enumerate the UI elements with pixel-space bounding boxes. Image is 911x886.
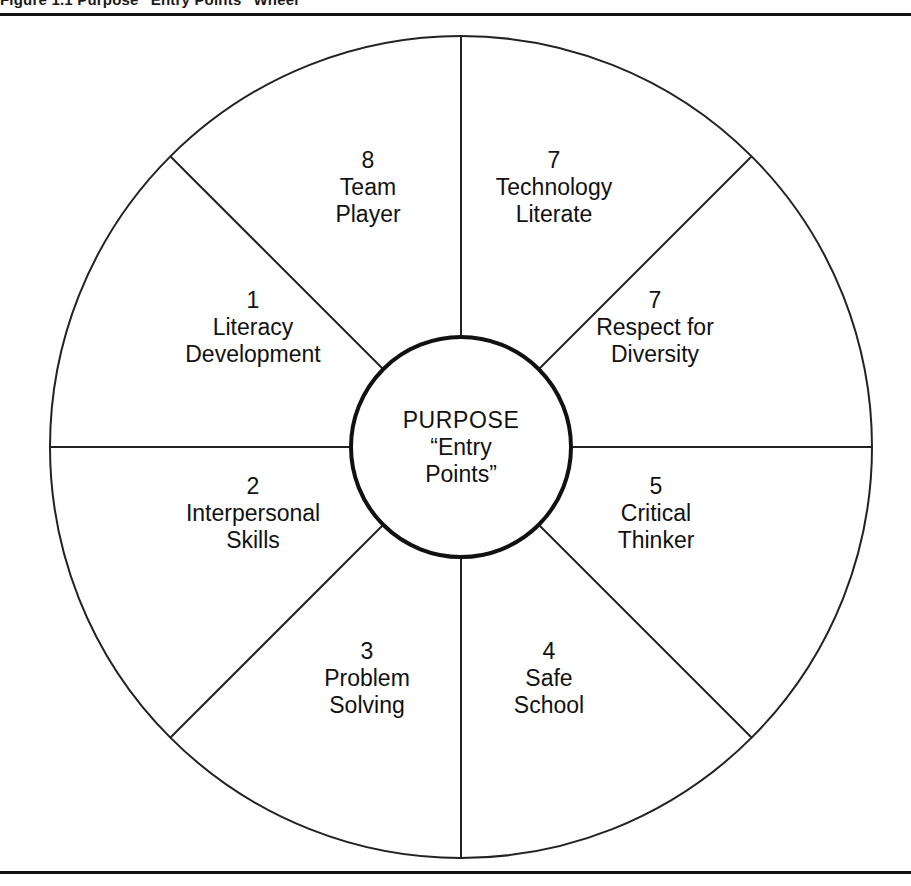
- segment-number: 2: [186, 473, 320, 500]
- segment-line-1: Critical: [618, 500, 695, 527]
- segment-line-2: Solving: [324, 691, 410, 718]
- segment-line-2: Diversity: [596, 340, 714, 367]
- segment-line-1: Technology: [496, 174, 612, 201]
- segment-label-respect-for-diversity: 7 Respect for Diversity: [596, 287, 714, 368]
- segment-line-1: Literacy: [185, 314, 321, 341]
- hub-label: PURPOSE “Entry Points”: [403, 407, 520, 488]
- segment-label-safe-school: 4 Safe School: [514, 638, 584, 719]
- segment-label-team-player: 8 Team Player: [335, 147, 400, 228]
- segment-line-1: Respect for: [596, 314, 714, 341]
- hub-title: PURPOSE: [403, 407, 520, 434]
- hub-subtitle-line-1: “Entry: [403, 434, 520, 461]
- segment-line-2: School: [514, 691, 584, 718]
- segment-line-1: Interpersonal: [186, 500, 320, 527]
- segment-line-2: Thinker: [618, 526, 695, 553]
- segment-number: 1: [185, 287, 321, 314]
- segment-line-2: Player: [335, 200, 400, 227]
- segment-label-problem-solving: 3 Problem Solving: [324, 638, 410, 719]
- segment-number: 8: [335, 147, 400, 174]
- segment-line-2: Skills: [186, 526, 320, 553]
- segment-label-technology-literate: 7 Technology Literate: [496, 147, 612, 228]
- hub-subtitle-line-2: Points”: [403, 460, 520, 487]
- segment-number: 7: [596, 287, 714, 314]
- segment-line-1: Safe: [514, 665, 584, 692]
- segment-label-literacy-development: 1 Literacy Development: [185, 287, 321, 368]
- segment-number: 3: [324, 638, 410, 665]
- segment-number: 4: [514, 638, 584, 665]
- segment-label-critical-thinker: 5 Critical Thinker: [618, 473, 695, 554]
- segment-line-1: Team: [335, 174, 400, 201]
- segment-number: 7: [496, 147, 612, 174]
- segment-number: 5: [618, 473, 695, 500]
- figure-root: Figure 1.1 Purpose “Entry Points” Wheel …: [0, 0, 911, 886]
- segment-line-1: Problem: [324, 665, 410, 692]
- segment-label-interpersonal-skills: 2 Interpersonal Skills: [186, 473, 320, 554]
- segment-line-2: Development: [185, 340, 321, 367]
- segment-line-2: Literate: [496, 200, 612, 227]
